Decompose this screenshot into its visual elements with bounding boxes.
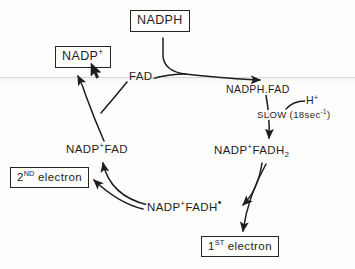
arrow-branch-to-fad: [101, 82, 127, 113]
slow-rate-tail: ): [327, 109, 331, 120]
arrow-fad-into-complex: [151, 74, 186, 79]
node-fad: FAD: [128, 70, 154, 82]
node-radical-base: NADP: [147, 201, 181, 213]
arrow-proton-in: [286, 101, 305, 109]
arrow-fadh2-to-first-electron: [243, 164, 266, 231]
arrow-radical-to-nadpfad: [103, 163, 148, 205]
second-electron-label: electron: [38, 171, 82, 183]
second-electron-ordinal-suffix: ND: [24, 169, 35, 178]
node-nadp-plus-label: NADP: [62, 49, 98, 63]
node-nadph: NADPH: [130, 10, 190, 32]
node-nadp-fad-tail: FAD: [104, 143, 128, 155]
node-proton: H+: [305, 95, 319, 106]
node-fad-label: FAD: [129, 70, 153, 82]
node-nadp-fadh2-mid: FADH: [252, 144, 284, 156]
node-nadp-plus-superscript: +: [98, 48, 103, 57]
node-radical-mid: FADH: [185, 201, 217, 213]
node-slow-rate-annotation: SLOW (18sec-1): [256, 110, 331, 120]
node-nadp-fad-base: NADP: [66, 143, 100, 155]
node-nadp-fadh2-subscript: 2: [285, 150, 290, 159]
node-proton-label: H: [306, 94, 314, 106]
first-electron-ordinal-suffix: ST: [215, 238, 224, 247]
slow-rate-label: SLOW (18sec: [257, 109, 321, 120]
node-nadph-fad-complex-label: NADPH.FAD: [226, 83, 290, 95]
node-nadp-fadh2: NADP+FADH2: [213, 144, 290, 156]
second-electron-ordinal-number: 2: [17, 171, 24, 183]
node-radical-dot: •: [218, 197, 222, 208]
arrow-layer: [0, 0, 355, 269]
node-nadp-fad: NADP+FAD: [65, 143, 129, 155]
diagram-canvas: NADPH NADP+ FAD NADPH.FAD H+ SLOW (18sec…: [0, 0, 355, 269]
node-first-electron: 1ST electron: [201, 236, 279, 257]
node-nadp-fadh2-base: NADP: [214, 144, 248, 156]
first-electron-ordinal-number: 1: [208, 240, 215, 252]
node-second-electron: 2ND electron: [10, 167, 89, 188]
arrow-nadpfad-to-nadp-plus: [78, 76, 104, 141]
node-nadp-fadh-radical: NADP+FADH•: [146, 201, 223, 213]
node-nadph-label: NADPH: [137, 13, 183, 27]
arrow-fadh2-to-radical: [243, 163, 262, 205]
node-nadph-fad-complex: NADPH.FAD: [225, 84, 291, 95]
mouse-pointer-icon: [90, 62, 103, 80]
first-electron-label: electron: [228, 240, 272, 252]
arrow-radical-to-second-electron: [94, 180, 143, 209]
node-proton-superscript: +: [314, 94, 318, 101]
